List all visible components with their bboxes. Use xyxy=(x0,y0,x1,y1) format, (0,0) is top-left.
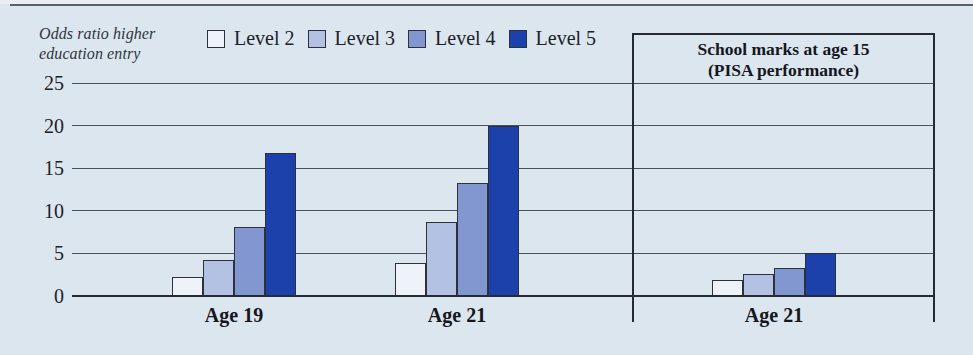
x-category-label-2: Age 21 xyxy=(377,304,537,327)
bar-level-2-group1 xyxy=(172,277,203,296)
bar-group-1-age-19 xyxy=(172,153,296,296)
y-tick-label-20: 20 xyxy=(0,114,64,138)
x-axis-line xyxy=(72,295,935,297)
bar-level-5-group2 xyxy=(488,126,519,296)
x-category-label-1: Age 19 xyxy=(154,304,314,327)
y-tick-label-25: 25 xyxy=(0,71,64,95)
chart-figure: Odds ratio higher education entry Level … xyxy=(0,0,973,355)
pisa-panel-title-line2: (PISA performance) xyxy=(634,60,933,81)
bar-level-4-group1 xyxy=(234,227,265,296)
pisa-panel-title: School marks at age 15 (PISA performance… xyxy=(634,39,933,80)
bar-level-2-group2 xyxy=(395,263,426,296)
bar-group-2-age-21 xyxy=(395,126,519,296)
y-tick-label-0: 0 xyxy=(0,284,64,308)
y-tick-label-5: 5 xyxy=(0,241,64,265)
bar-level-3-group1 xyxy=(203,260,234,296)
bar-level-4-group2 xyxy=(457,183,488,296)
y-tick-label-10: 10 xyxy=(0,199,64,223)
bar-level-3-group2 xyxy=(426,222,457,296)
y-tick-label-15: 15 xyxy=(0,156,64,180)
pisa-performance-panel: School marks at age 15 (PISA performance… xyxy=(632,33,935,322)
bar-level-5-group1 xyxy=(265,153,296,296)
pisa-panel-title-line1: School marks at age 15 xyxy=(634,39,933,60)
